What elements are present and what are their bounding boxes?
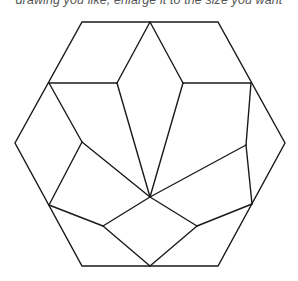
pattern-line [150,197,197,226]
pattern-line [117,83,150,197]
pattern-line [117,22,150,83]
pattern-line [82,142,150,197]
hexagon-pattern-diagram [0,0,298,281]
pattern-line [150,22,183,83]
hexagon-outline [15,22,285,266]
pattern-line [150,145,246,197]
pattern-line [49,83,82,142]
pattern-line [150,226,197,266]
pattern-line [150,83,183,197]
pattern-line [103,197,150,226]
pattern-line [49,142,82,205]
inner-lines [49,22,252,266]
pattern-line [103,226,150,266]
pattern-line [246,145,252,204]
pattern-line [246,83,251,145]
pattern-line [49,205,103,226]
pattern-line [197,204,252,226]
